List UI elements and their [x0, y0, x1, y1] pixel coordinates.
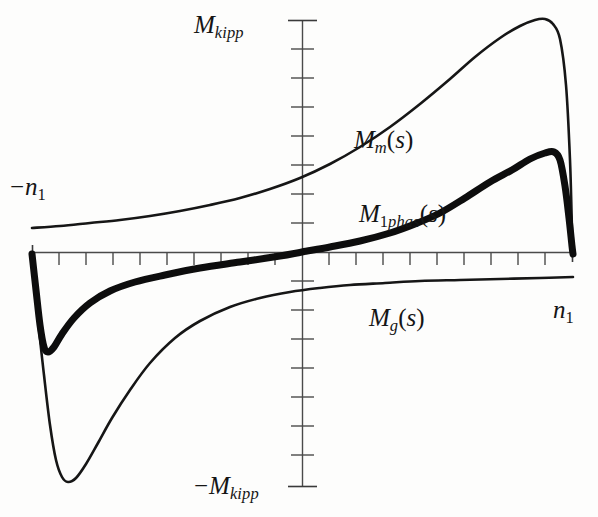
label-curve-mm: Mm(s)	[354, 127, 413, 156]
label-y-axis-top: Mkipp	[194, 12, 244, 41]
label-curve-mg: Mg(s)	[369, 305, 425, 334]
plot-canvas	[0, 0, 598, 517]
label-y-axis-bottom: −Mkipp	[194, 473, 259, 502]
label-x-axis-right: n1	[553, 297, 574, 326]
label-x-axis-left: −n1	[10, 174, 46, 203]
label-curve-m1phas: M1phas(s)	[359, 201, 446, 230]
torque-speed-diagram: Mkipp −Mkipp −n1 n1 Mm(s) M1phas(s) Mg(s…	[0, 0, 598, 517]
